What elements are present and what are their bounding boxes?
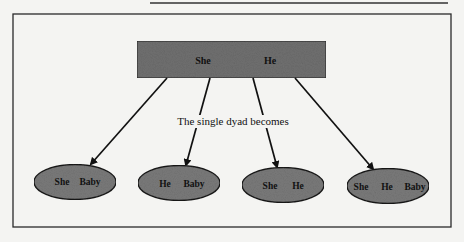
child-node-label: She: [263, 181, 278, 191]
top-node-she-he: She He: [137, 41, 326, 78]
child-node-label: Baby: [404, 182, 425, 192]
top-node-label-she: She: [195, 55, 211, 66]
child-node-label: Baby: [79, 177, 100, 187]
child-node-she-baby: She Baby: [34, 165, 116, 200]
arrow-to-she-baby: [91, 78, 167, 164]
child-node-label: Baby: [183, 179, 204, 189]
arrow-to-she-he-baby: [295, 78, 373, 169]
child-node-label: He: [292, 181, 304, 191]
diagram-caption: The single dyad becomes: [177, 115, 289, 127]
dyad-diagram: She He The single dyad becomes She Baby …: [0, 0, 464, 242]
child-node-label: He: [381, 182, 393, 192]
child-node-label: She: [55, 177, 70, 187]
top-node-label-he: He: [264, 55, 277, 66]
child-node-label: He: [159, 179, 171, 189]
child-node-she-he: She He: [242, 168, 324, 203]
child-node-label: She: [354, 182, 369, 192]
child-node-she-he-baby: She He Baby: [347, 169, 429, 204]
child-node-he-baby: He Baby: [138, 166, 220, 201]
